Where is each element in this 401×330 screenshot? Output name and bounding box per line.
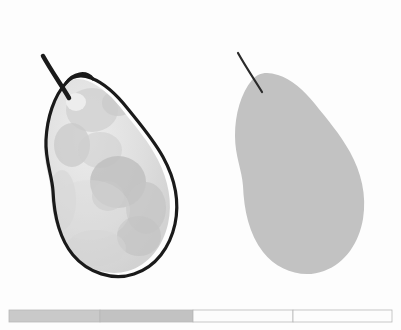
left-panel-group: [43, 56, 177, 277]
figure-svg: [0, 0, 401, 330]
scale-bar-segment-4[interactable]: [293, 310, 392, 322]
left-pear-stem: [43, 56, 69, 98]
segment-scale-bar[interactable]: [9, 310, 392, 322]
right-pear-silhouette: [235, 73, 364, 274]
scale-bar-segment-1[interactable]: [9, 310, 100, 322]
right-panel-group: [235, 53, 364, 274]
scale-bar-segment-2[interactable]: [100, 310, 193, 322]
figure-canvas: [0, 0, 401, 330]
scale-bar-segment-3[interactable]: [193, 310, 293, 322]
